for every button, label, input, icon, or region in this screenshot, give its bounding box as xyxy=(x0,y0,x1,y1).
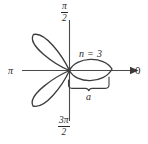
horizontal-axis xyxy=(22,67,139,74)
fraction-numerator: 3π xyxy=(58,116,70,127)
amplitude-label: a xyxy=(86,92,91,102)
axis-label-pi: π xyxy=(8,66,13,76)
rose-petal-lower-left xyxy=(32,71,69,107)
polar-rose-figure: π 2 3π 2 π 0 n = 3 a xyxy=(0,0,148,144)
fraction-three-pi-over-two: 3π 2 xyxy=(58,116,70,138)
fraction-denominator: 2 xyxy=(61,13,68,23)
petal-count-annotation: n = 3 xyxy=(79,49,102,59)
axis-label-three-pi-over-two: 3π 2 xyxy=(58,116,70,138)
fraction-pi-over-two: π 2 xyxy=(61,2,68,24)
amplitude-brace xyxy=(69,77,110,91)
fraction-denominator: 2 xyxy=(58,127,70,137)
polar-plot-canvas xyxy=(0,0,148,144)
axis-label-zero: 0 xyxy=(135,65,141,76)
rose-petal-upper-left xyxy=(32,34,69,70)
axis-label-pi-over-two: π 2 xyxy=(61,2,68,24)
brace-path xyxy=(69,77,110,91)
fraction-numerator: π xyxy=(61,2,68,13)
